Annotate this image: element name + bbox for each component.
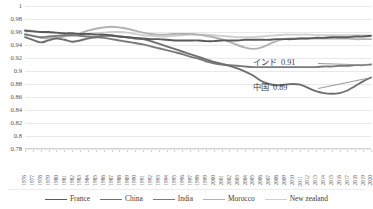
x-tick-label: 1980	[54, 175, 59, 186]
x-axis-line	[25, 148, 371, 149]
x-tick-mark	[72, 150, 73, 152]
legend-item-new-zealand[interactable]: New zealand	[265, 195, 328, 203]
x-tick-mark	[41, 150, 42, 152]
annotation-label: 中国	[253, 82, 269, 92]
annotation-value: 0.91	[277, 58, 295, 67]
x-tick-label: 2008	[274, 175, 279, 186]
x-tick-label: 1977	[30, 175, 35, 186]
x-tick-mark	[127, 150, 128, 152]
x-tick-label: 1989	[125, 175, 130, 186]
x-tick-label: 1986	[101, 175, 106, 186]
series-lines	[25, 6, 371, 149]
x-tick-label: 1987	[109, 175, 114, 186]
x-tick-label: 2019	[361, 175, 366, 186]
x-tick-mark	[316, 150, 317, 152]
x-tick-mark	[332, 150, 333, 152]
x-tick-label: 1998	[195, 175, 200, 186]
annotation-india: インド 0.91	[253, 58, 295, 67]
x-tick-label: 1994	[164, 175, 169, 186]
x-tick-mark	[88, 150, 89, 152]
legend-swatch	[153, 199, 175, 200]
y-tick-label: 0.94	[10, 42, 22, 49]
x-tick-label: 1992	[148, 175, 153, 186]
legend-item-morocco[interactable]: Morocco	[203, 195, 255, 203]
legend-item-china[interactable]: China	[100, 195, 143, 203]
y-axis-labels: 10.980.960.940.920.90.880.860.840.820.80…	[0, 6, 23, 149]
x-tick-label: 1991	[140, 175, 145, 186]
x-tick-mark	[182, 150, 183, 152]
legend-item-india[interactable]: India	[153, 195, 193, 203]
x-tick-label: 2000	[211, 175, 216, 186]
legend-divider	[8, 189, 365, 190]
x-tick-label: 1999	[203, 175, 208, 186]
x-tick-label: 2020	[368, 175, 373, 186]
x-tick-label: 1984	[85, 175, 90, 186]
x-tick-label: 1997	[188, 175, 193, 186]
x-tick-label: 1988	[117, 175, 122, 186]
y-tick-label: 0.96	[10, 29, 22, 36]
x-tick-label: 1982	[70, 175, 75, 186]
x-tick-label: 2013	[313, 175, 318, 186]
x-tick-mark	[167, 150, 168, 152]
x-tick-label: 1995	[172, 175, 177, 186]
x-tick-mark	[253, 150, 254, 152]
x-tick-mark	[222, 150, 223, 152]
x-axis-labels: 1976197719781979198019811982198319841985…	[25, 150, 371, 186]
legend-swatch	[100, 199, 122, 200]
x-tick-mark	[308, 150, 309, 152]
x-tick-mark	[229, 150, 230, 152]
y-tick-label: 0.9	[14, 68, 22, 75]
x-tick-mark	[143, 150, 144, 152]
y-tick-label: 0.78	[10, 146, 22, 153]
x-tick-mark	[174, 150, 175, 152]
x-tick-label: 1996	[180, 175, 185, 186]
x-tick-mark	[33, 150, 34, 152]
x-tick-label: 2004	[243, 175, 248, 186]
x-tick-mark	[269, 150, 270, 152]
x-tick-label: 2009	[282, 175, 287, 186]
y-tick-label: 0.92	[10, 55, 22, 62]
x-tick-mark	[340, 150, 341, 152]
x-tick-mark	[96, 150, 97, 152]
x-tick-label: 2007	[266, 175, 271, 186]
x-tick-mark	[261, 150, 262, 152]
y-tick-label: 1	[19, 3, 22, 10]
x-tick-mark	[237, 150, 238, 152]
x-tick-mark	[135, 150, 136, 152]
line-chart: 10.980.960.940.920.90.880.860.840.820.80…	[0, 0, 373, 209]
x-tick-label: 2011	[298, 176, 303, 186]
x-tick-mark	[159, 150, 160, 152]
legend-label: New zealand	[290, 195, 328, 203]
x-tick-label: 1985	[93, 175, 98, 186]
y-tick-label: 0.8	[14, 133, 22, 140]
x-tick-mark	[190, 150, 191, 152]
legend-label: France	[70, 195, 90, 203]
x-tick-label: 2001	[219, 175, 224, 186]
x-tick-mark	[277, 150, 278, 152]
y-tick-label: 0.86	[10, 94, 22, 101]
legend-label: China	[125, 195, 143, 203]
x-tick-label: 1990	[132, 175, 137, 186]
x-tick-label: 2002	[227, 175, 232, 186]
legend-item-france[interactable]: France	[45, 195, 90, 203]
y-tick-label: 0.88	[10, 81, 22, 88]
x-tick-mark	[324, 150, 325, 152]
x-tick-mark	[300, 150, 301, 152]
legend-swatch	[265, 199, 287, 200]
x-tick-label: 2017	[345, 175, 350, 186]
x-tick-mark	[198, 150, 199, 152]
chart-legend: FranceChinaIndiaMoroccoNew zealand	[0, 191, 373, 207]
annotation-china: 中国 0.89	[253, 83, 287, 92]
x-tick-mark	[347, 150, 348, 152]
y-tick-label: 0.84	[10, 107, 22, 114]
x-tick-mark	[56, 150, 57, 152]
x-tick-mark	[371, 150, 372, 152]
x-tick-label: 2016	[337, 175, 342, 186]
x-tick-label: 2006	[258, 175, 263, 186]
legend-swatch	[203, 199, 225, 200]
x-tick-mark	[206, 150, 207, 152]
x-tick-mark	[80, 150, 81, 152]
x-tick-mark	[64, 150, 65, 152]
x-tick-label: 1976	[22, 175, 27, 186]
x-tick-label: 2012	[305, 175, 310, 186]
